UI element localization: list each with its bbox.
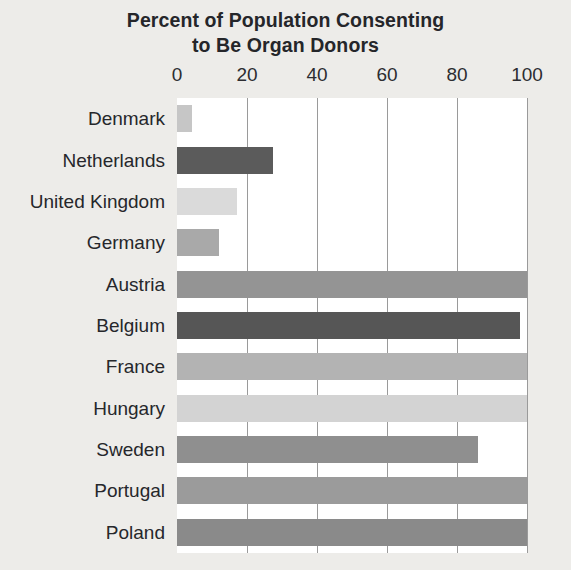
bar-denmark [177,105,192,132]
y-tick-label-germany: Germany [87,229,165,256]
x-tick-label-60: 60 [376,64,397,86]
bar-row [177,312,527,339]
bar-row [177,229,527,256]
bar-row [177,395,527,422]
y-tick-label-portugal: Portugal [94,477,165,504]
bar-row [177,105,527,132]
bar-row [177,147,527,174]
y-tick-label-denmark: Denmark [88,105,165,132]
bar-united-kingdom [177,188,237,215]
x-tick-label-20: 20 [236,64,257,86]
organ-donor-bar-chart: Percent of Population Consenting to Be O… [0,0,571,570]
bar-hungary [177,395,527,422]
bar-row [177,477,527,504]
bar-poland [177,519,527,546]
y-tick-label-netherlands: Netherlands [63,147,165,174]
chart-title-line-1: Percent of Population Consenting [0,8,571,33]
y-tick-label-belgium: Belgium [96,312,165,339]
bar-belgium [177,312,520,339]
y-tick-label-hungary: Hungary [93,395,165,422]
gridline-100 [527,98,528,553]
y-axis-category-labels: DenmarkNetherlandsUnited KingdomGermanyA… [0,98,172,553]
x-tick-label-40: 40 [306,64,327,86]
bar-portugal [177,477,527,504]
bar-row [177,271,527,298]
bar-row [177,353,527,380]
chart-title-line-2: to Be Organ Donors [0,33,571,58]
bar-germany [177,229,219,256]
x-tick-label-0: 0 [172,64,183,86]
x-axis-tick-labels: 020406080100 [0,64,571,92]
x-tick-label-100: 100 [511,64,543,86]
bar-netherlands [177,147,273,174]
y-tick-label-sweden: Sweden [96,436,165,463]
bar-row [177,188,527,215]
bar-sweden [177,436,478,463]
bar-austria [177,271,527,298]
y-tick-label-austria: Austria [106,271,165,298]
bar-france [177,353,527,380]
y-tick-label-poland: Poland [106,519,165,546]
y-tick-label-france: France [106,353,165,380]
x-tick-label-80: 80 [446,64,467,86]
bar-row [177,436,527,463]
y-tick-label-united-kingdom: United Kingdom [30,188,165,215]
plot-area [177,98,527,553]
chart-title: Percent of Population Consenting to Be O… [0,8,571,58]
bar-row [177,519,527,546]
